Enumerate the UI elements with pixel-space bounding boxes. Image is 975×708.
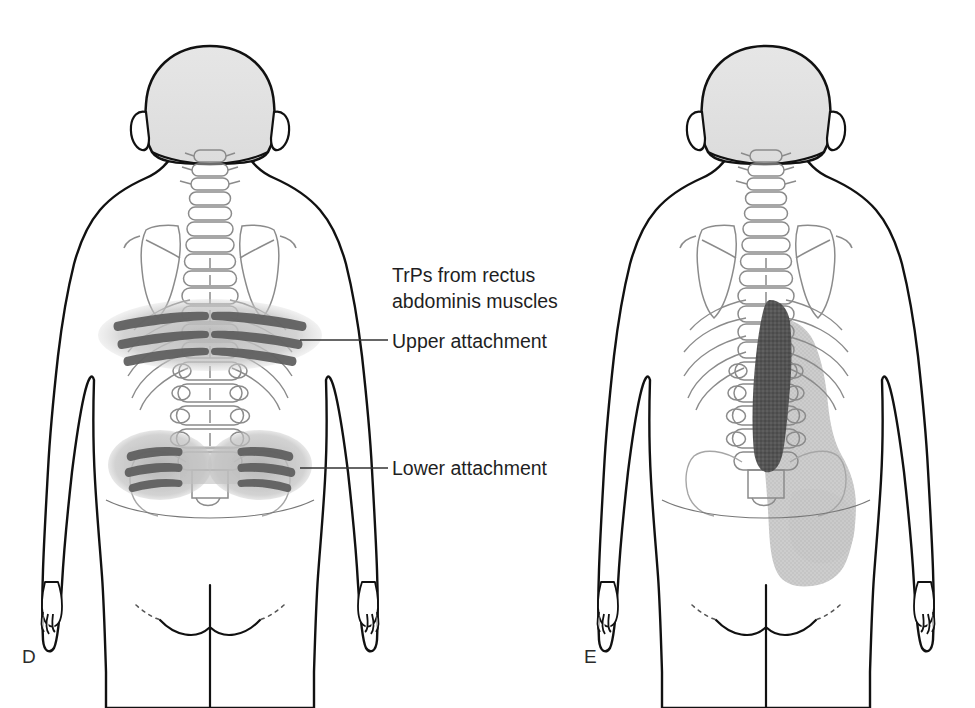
callout-title: TrPs from rectus abdominis muscles [392, 262, 558, 314]
callout-title-line2: abdominis muscles [392, 290, 558, 312]
figure-root: TrPs from rectus abdominis muscles Upper… [0, 0, 975, 708]
panel-letter-d: D [22, 646, 36, 668]
callout-title-line1: TrPs from rectus [392, 264, 535, 286]
callout-lower-attachment-label: Lower attachment [392, 455, 547, 481]
panel-letter-e: E [584, 646, 597, 668]
callout-upper-attachment-label: Upper attachment [392, 328, 547, 354]
leader-lines [0, 0, 975, 708]
